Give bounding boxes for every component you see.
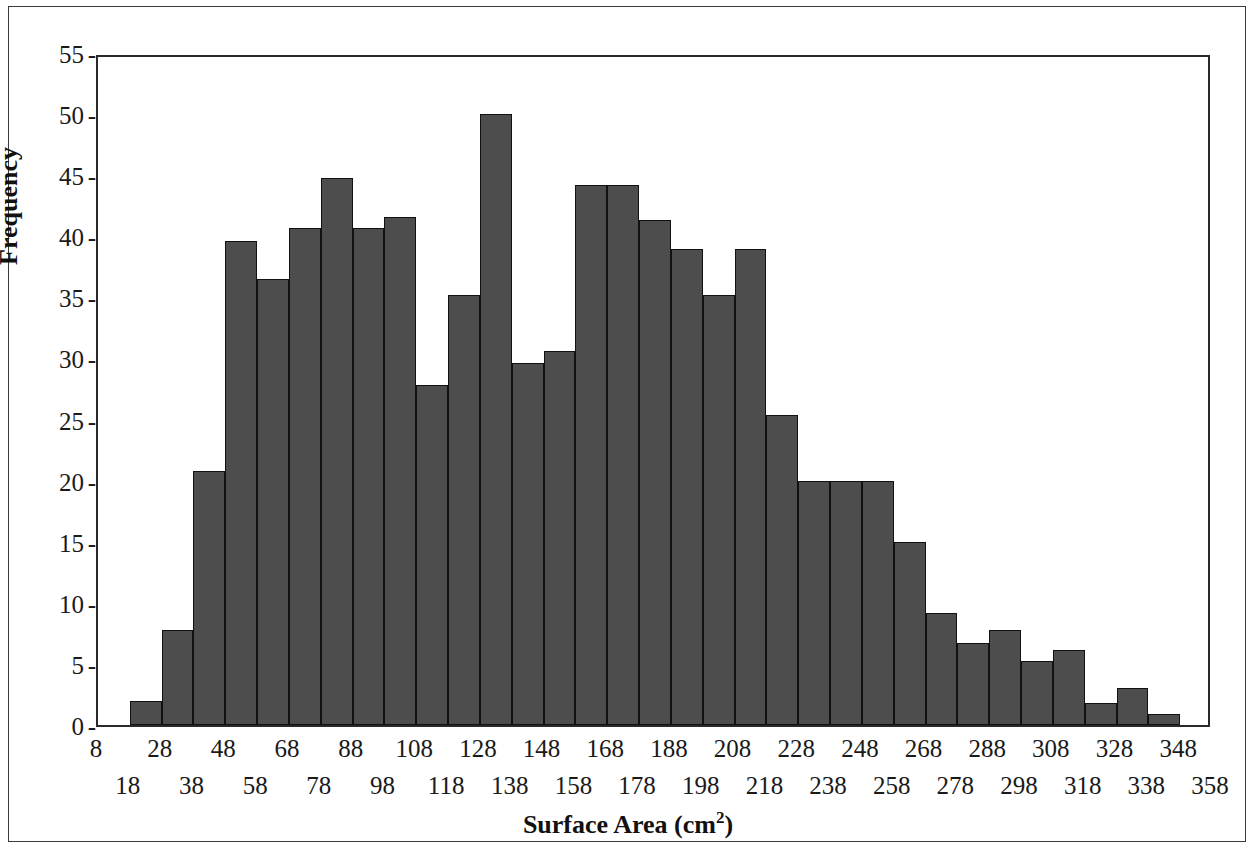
x-axis-tick-lower: 158	[555, 772, 593, 800]
histogram-bar	[894, 542, 926, 725]
histogram-bar	[289, 228, 321, 725]
y-axis-tick-dash: -	[86, 346, 96, 374]
y-axis-tick-dash: -	[86, 224, 96, 252]
x-axis-tick-lower: 218	[746, 772, 784, 800]
histogram-bar	[703, 295, 735, 725]
histogram-bar	[130, 701, 162, 725]
x-axis-tick-lower: 138	[491, 772, 529, 800]
histogram-bar	[257, 279, 289, 725]
histogram-bar	[957, 643, 989, 725]
y-axis-tick-dash: -	[86, 102, 96, 130]
y-axis-tick-value: 30	[59, 346, 86, 373]
y-axis-tick-value: 40	[59, 224, 86, 251]
histogram-bars	[98, 57, 1208, 725]
histogram-bar	[862, 481, 894, 725]
x-axis-tick-upper: 208	[714, 735, 752, 763]
y-axis-tick-value: 50	[59, 102, 86, 129]
histogram-bar	[225, 241, 257, 725]
y-axis-tick-dash: -	[86, 652, 96, 680]
x-axis-tick-lower: 18	[115, 772, 140, 800]
x-axis-tick-upper: 248	[841, 735, 879, 763]
x-axis-tick-upper: 288	[968, 735, 1006, 763]
histogram-bar	[1117, 688, 1149, 725]
x-axis-tick-upper: 108	[396, 735, 434, 763]
histogram-bar	[321, 178, 353, 725]
histogram-bar	[671, 249, 703, 726]
y-axis-tick-dash: -	[86, 285, 96, 313]
x-axis-tick-lower: 178	[618, 772, 656, 800]
x-axis-title: Surface Area (cm2)	[0, 808, 1256, 840]
x-axis-tick-upper: 68	[274, 735, 299, 763]
x-axis-title-paren: )	[724, 810, 733, 839]
x-axis-tick-upper: 48	[211, 735, 236, 763]
histogram-bar	[798, 481, 830, 725]
y-axis-tick-value: 15	[59, 530, 86, 557]
x-axis-tick-upper: 308	[1032, 735, 1070, 763]
x-axis-tick-lower: 278	[937, 772, 975, 800]
histogram-figure: 55-50-45-40-35-30-25-20-15-10-5-0- Frequ…	[0, 0, 1256, 855]
histogram-bar	[766, 415, 798, 725]
y-axis-tick: 15-	[0, 530, 96, 558]
y-axis-tick-value: 10	[59, 591, 86, 618]
y-axis-tick-dash: -	[86, 530, 96, 558]
histogram-bar	[1021, 661, 1053, 725]
x-axis-tick-upper: 348	[1159, 735, 1197, 763]
histogram-bar	[639, 220, 671, 725]
y-axis-tick-value: 35	[59, 285, 86, 312]
y-axis-tick-dash: -	[86, 591, 96, 619]
x-axis-tick-lower: 298	[1000, 772, 1038, 800]
y-axis-tick-dash: -	[86, 408, 96, 436]
histogram-bar	[1085, 703, 1117, 725]
histogram-bar	[544, 351, 576, 725]
histogram-bar	[480, 114, 512, 725]
histogram-bar	[1148, 714, 1180, 725]
y-axis-tick-value: 20	[59, 469, 86, 496]
x-axis-tick-upper: 168	[587, 735, 625, 763]
y-axis-tick-dash: -	[86, 163, 96, 191]
y-axis-tick-value: 45	[59, 163, 86, 190]
x-axis-tick-lower: 198	[682, 772, 720, 800]
y-axis-tick: 10-	[0, 591, 96, 619]
y-axis-tick: 20-	[0, 469, 96, 497]
y-axis-tick-dash: -	[86, 469, 96, 497]
x-axis-tick-upper: 28	[147, 735, 172, 763]
y-axis-tick: 55-	[0, 41, 96, 69]
y-axis-tick: 5-	[0, 652, 96, 680]
histogram-bar	[735, 249, 767, 726]
x-axis-tick-lower: 238	[809, 772, 847, 800]
x-axis-tick-upper: 228	[777, 735, 815, 763]
x-axis-tick-lower: 58	[243, 772, 268, 800]
histogram-bar	[512, 363, 544, 725]
histogram-bar	[448, 295, 480, 725]
x-axis-tick-lower: 358	[1191, 772, 1229, 800]
histogram-bar	[989, 630, 1021, 725]
x-axis-tick-upper: 88	[338, 735, 363, 763]
histogram-bar	[926, 613, 958, 725]
x-axis-tick-lower: 258	[873, 772, 911, 800]
histogram-bar	[353, 228, 385, 725]
histogram-bar	[830, 481, 862, 725]
y-axis-tick: 30-	[0, 346, 96, 374]
x-axis-tick-lower: 338	[1128, 772, 1166, 800]
histogram-bar	[384, 217, 416, 725]
histogram-bar	[1053, 650, 1085, 725]
histogram-bar	[607, 185, 639, 725]
x-axis-tick-upper: 268	[905, 735, 943, 763]
x-axis-tick-lower: 98	[370, 772, 395, 800]
x-axis-tick-lower: 318	[1064, 772, 1102, 800]
y-axis-tick-labels: 55-50-45-40-35-30-25-20-15-10-5-0-	[0, 0, 96, 782]
histogram-bar	[416, 385, 448, 725]
histogram-bar	[193, 471, 225, 725]
x-axis-tick-lower: 78	[306, 772, 331, 800]
y-axis-tick-value: 5	[72, 652, 87, 679]
x-axis-tick-upper: 128	[459, 735, 497, 763]
histogram-bar	[162, 630, 194, 725]
y-axis-tick: 25-	[0, 408, 96, 436]
x-axis-tick-upper: 148	[523, 735, 561, 763]
y-axis-tick-value: 55	[59, 41, 86, 68]
x-axis-title-text: Surface Area (cm	[523, 810, 716, 839]
x-axis-tick-lower: 118	[428, 772, 465, 800]
y-axis-tick-value: 25	[59, 408, 86, 435]
y-axis-title: Frequency	[0, 147, 24, 265]
x-axis-tick-upper: 328	[1096, 735, 1134, 763]
